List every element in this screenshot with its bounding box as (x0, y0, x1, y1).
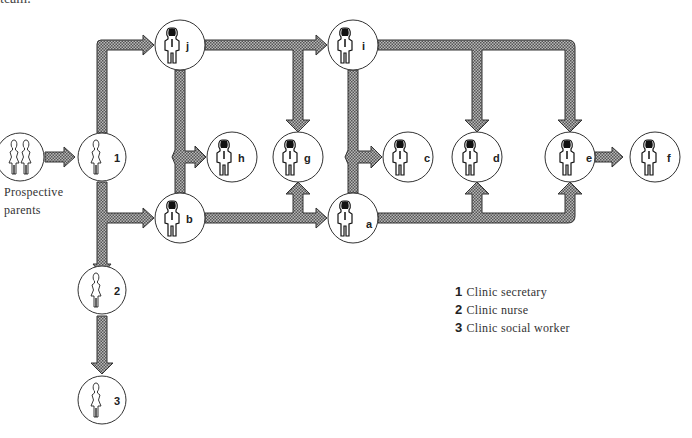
node-e: e (545, 132, 595, 182)
node-j: j (155, 20, 205, 70)
node-f: f (630, 132, 680, 182)
node-d: d (452, 132, 502, 182)
svg-text:a: a (366, 218, 373, 230)
node-h: h (207, 132, 257, 182)
svg-text:i: i (362, 40, 365, 52)
svg-text:g: g (304, 152, 311, 164)
svg-text:c: c (424, 152, 430, 164)
legend-item-3: 3Clinic social worker (455, 319, 570, 337)
legend-item-2: 2Clinic nurse (455, 301, 570, 319)
svg-text:2: 2 (114, 285, 120, 297)
prospective-parents-caption: Prospective parents (4, 183, 63, 219)
node-i: i (328, 20, 378, 70)
node-c: c (383, 132, 433, 182)
node-b: b (155, 193, 205, 243)
node-g: g (273, 132, 323, 182)
svg-text:3: 3 (114, 395, 120, 407)
svg-text:j: j (185, 40, 189, 52)
legend: 1Clinic secretary 2Clinic nurse 3Clinic … (455, 283, 570, 337)
legend-item-1: 1Clinic secretary (455, 283, 570, 301)
node-1-clinic-secretary: 1 (78, 133, 126, 181)
svg-text:1: 1 (114, 152, 120, 164)
node-a: a (328, 193, 378, 243)
svg-text:d: d (493, 152, 500, 164)
svg-text:h: h (238, 152, 245, 164)
caption-line-2: parents (4, 201, 63, 219)
node-2-clinic-nurse: 2 (78, 266, 126, 314)
svg-text:f: f (667, 152, 671, 164)
referral-flow-diagram: 1 2 3 j b h g i a c (0, 0, 692, 438)
svg-text:e: e (586, 152, 592, 164)
node-prospective-parents (0, 133, 44, 181)
caption-line-1: Prospective (4, 183, 63, 201)
svg-text:b: b (186, 213, 193, 225)
node-3-clinic-social-worker: 3 (78, 376, 126, 424)
